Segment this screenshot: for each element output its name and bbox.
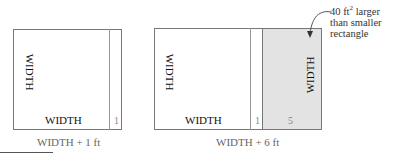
left-caption: WIDTH + 1 ft xyxy=(37,136,100,148)
right-extra-strip-label: 1 xyxy=(255,115,260,126)
curved-arrow-icon xyxy=(290,4,335,44)
right-caption: WIDTH + 6 ft xyxy=(216,136,279,148)
shaded-strip-label: 5 xyxy=(288,115,293,126)
annotation-text: 40 ft2 larger than smaller rectangle xyxy=(330,3,382,39)
shaded-width-side-label: WIDTH xyxy=(304,51,316,99)
right-width-side-label: WIDTH xyxy=(164,48,176,96)
left-extra-strip-label: 1 xyxy=(114,115,119,126)
right-width-bottom-label: WIDTH xyxy=(185,114,222,126)
annotation-line1-suffix: larger xyxy=(353,6,380,17)
annotation-line2: than smaller xyxy=(330,17,382,28)
footer-rule xyxy=(0,152,53,153)
left-width-side-label: WIDTH xyxy=(24,48,36,96)
annotation-line3: rectangle xyxy=(330,28,382,39)
left-width-bottom-label: WIDTH xyxy=(45,114,82,126)
